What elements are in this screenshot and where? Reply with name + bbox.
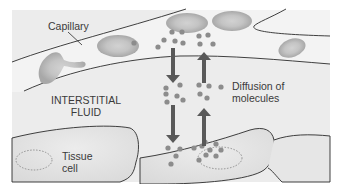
red-blood-cell xyxy=(212,11,252,31)
molecule-dot xyxy=(180,97,185,102)
molecule-dot xyxy=(174,93,179,98)
tissue-cell-label-line1: Tissue xyxy=(62,150,93,162)
molecule-dot xyxy=(177,82,182,87)
molecule-dot xyxy=(155,44,160,49)
molecule-dot xyxy=(218,84,223,89)
molecule-dot xyxy=(191,145,196,150)
molecule-dot xyxy=(177,146,182,151)
molecule-dot xyxy=(204,95,209,100)
diffusion-label-line1: Diffusion of xyxy=(232,80,284,92)
diffusion-label: Diffusion of molecules xyxy=(232,80,284,104)
molecule-dot xyxy=(197,41,202,46)
molecule-dot xyxy=(210,41,215,46)
molecule-dot xyxy=(180,40,185,45)
molecule-dot xyxy=(196,82,201,87)
molecule-dot xyxy=(179,29,184,34)
molecule-dot xyxy=(168,161,173,166)
molecule-dot xyxy=(131,40,136,45)
molecule-dot xyxy=(196,33,201,38)
molecule-dot xyxy=(218,147,223,152)
molecule-dot xyxy=(203,152,208,157)
molecule-dot xyxy=(205,32,210,37)
interstitial-fluid-label-line1: INTERSTITIAL xyxy=(36,94,136,106)
molecule-dot xyxy=(196,157,201,162)
molecule-dot xyxy=(161,37,166,42)
tissue-cell-right xyxy=(268,135,330,182)
red-blood-cell xyxy=(97,35,139,57)
molecule-dot xyxy=(173,153,178,158)
molecule-dot xyxy=(163,91,168,96)
interstitial-fluid-label: INTERSTITIAL FLUID xyxy=(36,94,136,118)
tissue-cell-label: Tissue cell xyxy=(62,150,93,174)
molecule-dot xyxy=(213,153,218,158)
molecule-dot xyxy=(197,91,202,96)
molecule-dot xyxy=(172,38,177,43)
capillary-label: Capillary xyxy=(48,20,89,32)
molecule-dot xyxy=(206,83,211,88)
tissue-cell-label-line2: cell xyxy=(62,162,93,174)
interstitial-fluid-label-line2: FLUID xyxy=(36,106,136,118)
molecule-dot xyxy=(213,141,218,146)
diffusion-label-line2: molecules xyxy=(232,92,284,104)
molecule-dot xyxy=(163,85,168,90)
molecule-dot xyxy=(169,29,174,34)
molecule-dot xyxy=(164,99,169,104)
molecule-dot xyxy=(165,145,170,150)
molecule-dot xyxy=(207,147,212,152)
